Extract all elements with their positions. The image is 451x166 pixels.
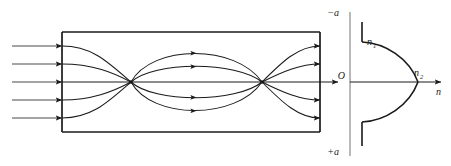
boundary-label-negative-a: −a bbox=[327, 7, 339, 18]
figure-canvas: −a +a O n n 1 n 2 bbox=[0, 0, 451, 166]
index-axis-label: n bbox=[436, 86, 441, 97]
boundary-label-positive-a: +a bbox=[327, 146, 339, 157]
origin-label: O bbox=[338, 70, 345, 81]
grin-waveguide-figure: −a +a O n n 1 n 2 bbox=[0, 0, 451, 166]
figure-background bbox=[0, 0, 451, 166]
cladding-index-subscript: 1 bbox=[373, 42, 376, 49]
core-index-base: n bbox=[414, 67, 419, 78]
cladding-index-base: n bbox=[367, 36, 372, 47]
